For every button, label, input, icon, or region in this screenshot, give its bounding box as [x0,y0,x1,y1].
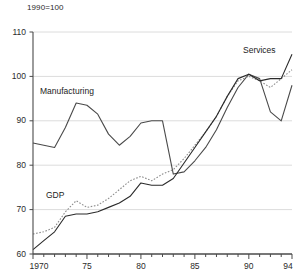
series-label-manufacturing: Manufacturing [40,86,94,96]
series-line-services [33,54,292,249]
x-axis-tick-label: 94 [273,261,298,271]
y-axis-tick-label: 100 [2,71,26,81]
y-axis-tick-label: 80 [2,160,26,170]
x-axis-tick-label: 80 [126,261,156,271]
y-axis-tick-label: 60 [2,249,26,259]
axis-major-ticks [30,32,293,259]
x-axis-tick-label: 85 [180,261,210,271]
series-lines [33,54,292,249]
gridlines [33,32,292,254]
x-axis-tick-label: 1970 [24,261,54,271]
y-axis-tick-label: 110 [2,27,26,37]
x-axis-tick-label: 90 [234,261,264,271]
y-axis-tick-label: 90 [2,115,26,125]
series-label-services: Services [243,45,276,55]
x-axis-tick-label: 75 [72,261,102,271]
series-label-gdp: GDP [46,190,64,200]
chart-plot-area [0,0,298,275]
y-axis-tick-label: 70 [2,204,26,214]
index-line-chart: 1990=100 60708090100110 19707580859094 M… [0,0,298,275]
